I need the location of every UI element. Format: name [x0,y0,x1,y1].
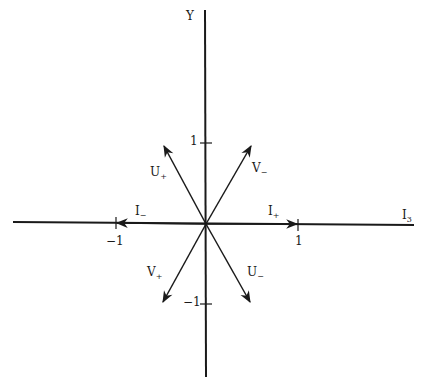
y-axis [205,10,206,377]
label-v-minus: V− [251,161,267,177]
label-i-plus: I+ [268,204,279,220]
label-u-plus: U+ [150,165,167,181]
vector-i-minus [117,223,206,224]
tick-label-y-pos: 1 [190,134,198,148]
tick-label-x-pos: 1 [295,234,303,248]
label-i-minus: I− [135,204,146,220]
tick-label-x-neg: −1 [106,234,124,248]
y-axis-label: Y [185,9,195,23]
vector-u-minus [206,224,250,302]
x-axis-label: I3 [402,208,412,224]
vector-u-plus [164,146,206,224]
tick-label-y-neg: −1 [183,295,201,309]
label-u-minus: U− [247,265,264,281]
weight-diagram: Y I3 −1 1 1 −1 I+ I− U+ U− V+ V− [0,0,423,387]
label-v-plus: V+ [146,265,162,281]
vector-v-plus [163,224,206,302]
vector-v-minus [206,146,251,224]
